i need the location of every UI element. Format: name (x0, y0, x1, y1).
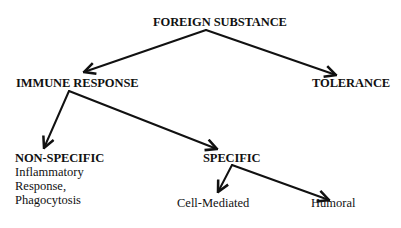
arrow-immune-to-nonspecific (44, 91, 69, 148)
node-cell-mediated: Cell-Mediated (177, 197, 249, 210)
arrow-immune-to-specific (69, 91, 217, 149)
arrow-foreign-to-tolerance (206, 30, 336, 75)
non-specific-detail-line: Response, (15, 180, 66, 193)
node-tolerance: TOLERANCE (312, 77, 390, 90)
arrow-specific-to-humoral (232, 165, 329, 200)
arrow-foreign-to-immune (84, 30, 206, 72)
arrow-specific-to-cellmediated (218, 165, 232, 192)
node-foreign-substance: FOREIGN SUBSTANCE (153, 16, 287, 29)
node-immune-response: IMMUNE RESPONSE (16, 77, 138, 90)
diagram-canvas: FOREIGN SUBSTANCE IMMUNE RESPONSE TOLERA… (0, 0, 401, 228)
non-specific-detail-line: Inflammatory (15, 166, 84, 179)
non-specific-detail-line: Phagocytosis (15, 194, 81, 207)
node-specific: SPECIFIC (203, 152, 261, 165)
node-humoral: Humoral (311, 197, 355, 210)
node-non-specific: NON-SPECIFIC (15, 152, 104, 165)
